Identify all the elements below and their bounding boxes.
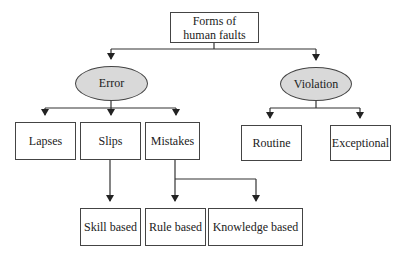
rule-based-node: Rule based — [145, 208, 206, 246]
routine-label: Routine — [253, 136, 291, 150]
violation-label: Violation — [294, 77, 339, 92]
skill-based-label: Skill based — [84, 220, 137, 234]
slips-node: Slips — [80, 122, 141, 160]
mistakes-node: Mistakes — [145, 122, 200, 160]
error-label: Error — [99, 76, 124, 91]
rule-based-label: Rule based — [149, 220, 202, 234]
lapses-label: Lapses — [29, 134, 62, 148]
skill-based-node: Skill based — [80, 208, 141, 246]
routine-node: Routine — [241, 125, 302, 161]
lapses-node: Lapses — [15, 122, 76, 160]
knowledge-based-node: Knowledge based — [208, 208, 303, 246]
root-label-line2: human faults — [183, 28, 245, 42]
exceptional-label: Exceptional — [332, 136, 389, 150]
root-node: Forms of human faults — [170, 12, 259, 43]
knowledge-based-label: Knowledge based — [213, 220, 299, 234]
root-label-line1: Forms of — [183, 14, 245, 28]
violation-node: Violation — [280, 67, 352, 101]
mistakes-label: Mistakes — [151, 134, 194, 148]
error-node: Error — [75, 66, 148, 101]
exceptional-node: Exceptional — [330, 125, 391, 161]
slips-label: Slips — [98, 134, 122, 148]
